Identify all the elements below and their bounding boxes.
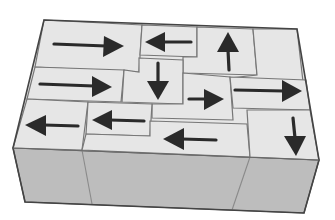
block-8[interactable]: [230, 77, 310, 110]
arrow-puzzle-box: [0, 0, 335, 220]
block-12[interactable]: [247, 110, 319, 160]
block-1[interactable]: [35, 20, 142, 72]
puzzle-canvas: [0, 0, 335, 220]
block-5[interactable]: [27, 67, 124, 102]
block-2[interactable]: [140, 25, 197, 57]
block-10[interactable]: [86, 102, 152, 136]
block-9[interactable]: [13, 99, 88, 150]
